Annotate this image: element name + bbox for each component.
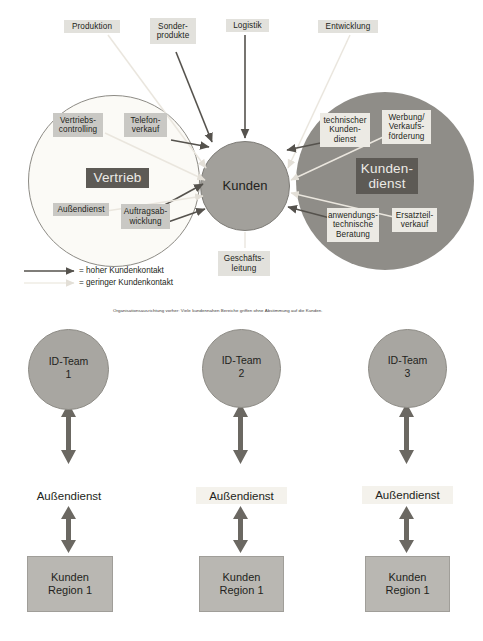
field-service-label-2: Außendienst xyxy=(196,487,287,504)
idteam-circle-1-label: ID-Team 1 xyxy=(29,355,108,380)
connector-layer xyxy=(0,0,483,641)
dept-chip-produktion[interactable]: Produktion xyxy=(64,20,120,33)
legend-row-high-contact: = hoher Kundenkontakt xyxy=(79,266,164,275)
dept-chip-logistik[interactable]: Logistik xyxy=(226,19,269,32)
idteam-circle-1: ID-Team 1 xyxy=(28,329,109,410)
field-service-label-1: Außendienst xyxy=(23,487,115,504)
unit-chip-werbung-verkaufsfoerderung[interactable]: Werbung/ Verkaufs- förderung xyxy=(382,110,431,144)
kundendienst-title-tag: Kunden- dienst xyxy=(356,158,418,194)
idteam-circle-2-label: ID-Team 2 xyxy=(203,354,280,379)
dept-chip-entwicklung[interactable]: Entwicklung xyxy=(318,20,378,33)
unit-chip-vertriebscontrolling[interactable]: Vertriebs- controlling xyxy=(53,113,103,137)
idteam-circle-3: ID-Team 3 xyxy=(368,329,447,408)
geschaeftsleitung-chip[interactable]: Geschäfts- leitung xyxy=(218,251,270,276)
unit-chip-anwendungstechnische-beratung[interactable]: anwendungs- technische Beratung xyxy=(327,208,379,242)
dept-chip-sonderprodukte[interactable]: Sonder- produkte xyxy=(150,18,196,44)
unit-chip-telefonverkauf[interactable]: Telefon- verkauf xyxy=(124,113,167,137)
unit-chip-technischer-kundendienst[interactable]: technischer Kunden- dienst xyxy=(320,113,370,147)
idteam-circle-2: ID-Team 2 xyxy=(202,329,281,408)
legend-row-low-contact: = geringer Kundenkontakt xyxy=(79,278,173,287)
double-arrow-col3-top xyxy=(399,403,414,464)
customer-region-box-2[interactable]: Kunden Region 1 xyxy=(199,556,284,612)
unit-chip-aussendienst[interactable]: Außendienst xyxy=(53,203,109,216)
customer-region-box-1[interactable]: Kunden Region 1 xyxy=(27,556,113,612)
vertrieb-title-tag: Vertrieb xyxy=(86,168,149,188)
diagram-page: Kunden xyxy=(0,0,483,641)
field-service-label-3: Außendienst xyxy=(362,486,453,504)
double-arrow-col1-bottom xyxy=(61,506,76,553)
idteam-circle-3-label: ID-Team 3 xyxy=(369,354,446,379)
caption-top-diagram: Organisationsausrichtung vorher: Viele k… xyxy=(113,308,323,313)
unit-chip-auftragsabwicklung[interactable]: Auftragsab- wicklung xyxy=(121,204,170,229)
double-arrow-col1-top xyxy=(61,403,76,464)
double-arrow-col2-bottom xyxy=(233,506,248,553)
customer-region-box-3[interactable]: Kunden Region 1 xyxy=(365,556,450,612)
unit-chip-ersatzteilverkauf[interactable]: Ersatzteil- verkauf xyxy=(392,208,437,232)
double-arrow-col2-top xyxy=(233,403,248,464)
double-arrow-col3-bottom xyxy=(399,506,414,553)
